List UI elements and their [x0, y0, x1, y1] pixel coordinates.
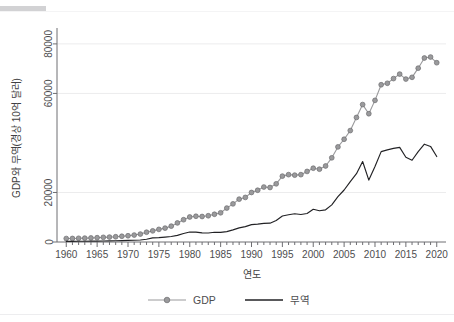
- data-point: [428, 55, 433, 60]
- data-point: [101, 235, 106, 240]
- data-point: [119, 234, 124, 239]
- x-tick-label: 2010: [364, 249, 387, 260]
- data-point: [181, 217, 186, 222]
- data-point: [70, 236, 75, 241]
- data-point: [416, 66, 421, 71]
- gridlines-group: [57, 44, 446, 193]
- data-point: [385, 81, 390, 86]
- data-point: [255, 188, 260, 193]
- x-tick-label: 1990: [240, 249, 263, 260]
- data-point: [175, 221, 180, 226]
- data-point: [206, 213, 211, 218]
- x-tick-label: 1980: [179, 249, 202, 260]
- data-point: [249, 190, 254, 195]
- y-tick-label: 80000: [44, 30, 55, 58]
- chart-figure: 0200006000080000 19601965197019751980198…: [0, 12, 454, 312]
- data-point: [212, 212, 217, 217]
- x-tick-label: 2020: [426, 249, 449, 260]
- y-tick-label: 20000: [44, 178, 55, 206]
- data-point: [403, 77, 408, 82]
- data-point: [274, 181, 279, 186]
- data-point: [280, 174, 285, 179]
- series-group: [64, 55, 439, 242]
- data-point: [89, 236, 94, 241]
- data-point: [397, 72, 402, 77]
- y-axis: 0200006000080000: [44, 28, 58, 245]
- data-point: [391, 76, 396, 81]
- data-point: [360, 102, 365, 107]
- data-point: [126, 233, 131, 238]
- data-point: [261, 185, 266, 190]
- data-point: [231, 201, 236, 206]
- y-tick-label: 60000: [44, 79, 55, 107]
- y-axis-title: GDP와 무역(경상 10억 달러): [10, 78, 22, 198]
- data-point: [224, 206, 229, 211]
- data-point: [138, 232, 143, 237]
- data-point: [292, 173, 297, 178]
- data-point: [76, 236, 81, 241]
- data-point: [366, 111, 371, 116]
- x-tick-label: 1960: [55, 249, 78, 260]
- legend-marker-GDP: [164, 297, 170, 303]
- x-axis-title: 연도: [243, 269, 261, 280]
- y-tick-label: 0: [44, 239, 55, 245]
- x-tick-label: 1995: [271, 249, 294, 260]
- data-point: [317, 167, 322, 172]
- data-point: [82, 236, 87, 241]
- chart-svg: 0200006000080000 19601965197019751980198…: [0, 12, 454, 312]
- data-point: [434, 60, 439, 65]
- data-point: [200, 214, 205, 219]
- data-point: [410, 75, 415, 80]
- data-point: [144, 230, 149, 235]
- x-tick-label: 1985: [210, 249, 233, 260]
- x-tick-label: 1970: [117, 249, 140, 260]
- data-point: [132, 233, 137, 238]
- data-point: [305, 169, 310, 174]
- legend-label-무역: 무역: [290, 294, 310, 306]
- data-point: [286, 172, 291, 177]
- data-point: [150, 228, 155, 233]
- data-point: [169, 224, 174, 229]
- data-point: [299, 172, 304, 177]
- legend-label-GDP: GDP: [193, 294, 216, 306]
- data-point: [323, 164, 328, 169]
- data-point: [422, 56, 427, 61]
- x-axis: 1960196519701975198019851990199520002005…: [55, 242, 448, 260]
- data-point: [237, 197, 242, 202]
- data-point: [218, 210, 223, 215]
- x-tick-label: 2005: [333, 249, 356, 260]
- data-point: [64, 236, 69, 241]
- data-point: [243, 195, 248, 200]
- data-point: [336, 145, 341, 150]
- data-point: [156, 227, 161, 232]
- x-tick-label: 1975: [148, 249, 171, 260]
- data-point: [107, 235, 112, 240]
- data-point: [163, 226, 168, 231]
- data-point: [187, 215, 192, 220]
- data-point: [268, 185, 273, 190]
- data-point: [354, 115, 359, 120]
- data-point: [342, 137, 347, 142]
- data-point: [373, 98, 378, 103]
- bottom-divider: [0, 314, 454, 315]
- data-point: [95, 235, 100, 240]
- data-point: [311, 166, 316, 171]
- data-point: [348, 128, 353, 133]
- data-point: [329, 155, 334, 160]
- data-point: [379, 82, 384, 87]
- data-point: [194, 214, 199, 219]
- x-tick-label: 2000: [302, 249, 325, 260]
- chart-legend: GDP무역: [148, 294, 310, 306]
- x-tick-label: 1965: [86, 249, 109, 260]
- x-tick-label: 2015: [395, 249, 418, 260]
- data-point: [113, 234, 118, 239]
